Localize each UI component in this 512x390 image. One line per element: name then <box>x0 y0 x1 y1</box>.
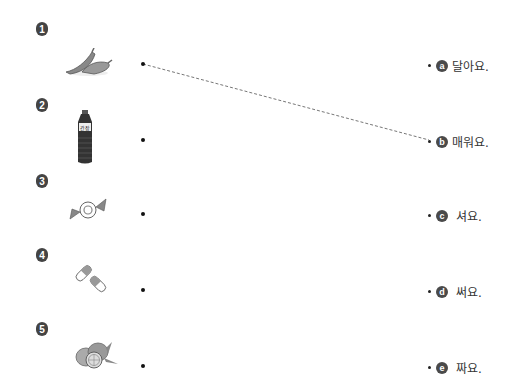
letter-badge-d: d <box>436 286 448 298</box>
answer-d[interactable]: d 써요. <box>428 283 482 300</box>
pills-icon <box>74 264 110 298</box>
answer-e-dot[interactable] <box>428 366 431 369</box>
answer-c[interactable]: c 셔요. <box>428 207 482 224</box>
answer-b[interactable]: b 매워요. <box>428 133 489 150</box>
item-number-2: 2 <box>36 98 48 112</box>
answer-c-text: 셔요. <box>456 207 482 224</box>
answer-b-text: 매워요. <box>452 133 489 150</box>
item-4-dot[interactable] <box>141 288 145 292</box>
item-number-4: 4 <box>36 248 48 262</box>
item-3-dot[interactable] <box>141 212 145 216</box>
item-number-3: 3 <box>36 174 48 188</box>
answer-b-dot[interactable] <box>428 140 431 143</box>
letter-badge-a: a <box>436 60 448 72</box>
item-5-dot[interactable] <box>141 364 145 368</box>
answer-c-dot[interactable] <box>428 214 431 217</box>
item-1-dot[interactable] <box>141 62 145 66</box>
item-2-dot[interactable] <box>141 138 145 142</box>
item-number-1: 1 <box>36 22 48 36</box>
answer-a-dot[interactable] <box>428 64 431 67</box>
wrapped-candy-icon <box>68 195 108 227</box>
letter-badge-c: c <box>436 210 448 222</box>
lemons-icon <box>74 340 122 374</box>
chili-peppers-icon <box>62 48 114 82</box>
answer-e-text: 짜요. <box>456 359 482 376</box>
answer-a[interactable]: a 달아요. <box>428 57 489 74</box>
letter-badge-e: e <box>436 362 448 374</box>
answer-a-text: 달아요. <box>452 57 489 74</box>
soy-sauce-bottle-icon: 간장 <box>76 110 94 168</box>
svg-text:간장: 간장 <box>80 125 90 131</box>
answer-d-text: 써요. <box>456 283 482 300</box>
item-number-5: 5 <box>36 322 48 336</box>
answer-d-dot[interactable] <box>428 290 431 293</box>
letter-badge-b: b <box>436 136 448 148</box>
answer-e[interactable]: e 짜요. <box>428 359 482 376</box>
